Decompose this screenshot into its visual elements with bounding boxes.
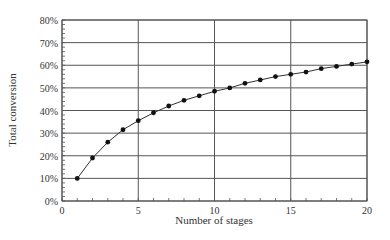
y-tick-label: 80% [40, 15, 58, 26]
conversion-chart: 0%10%20%30%40%50%60%70%80% 05101520 Numb… [0, 0, 390, 240]
data-point [288, 72, 293, 77]
y-tick-label: 50% [40, 83, 58, 94]
y-tick-label: 30% [40, 128, 58, 139]
data-point [319, 66, 324, 71]
x-axis-label: Number of stages [175, 214, 253, 226]
x-tick-label: 5 [136, 205, 141, 216]
y-tick-label: 20% [40, 151, 58, 162]
x-tick-label: 0 [60, 205, 65, 216]
y-tick-labels: 0%10%20%30%40%50%60%70%80% [40, 15, 58, 207]
data-point [182, 98, 187, 103]
data-point [258, 78, 263, 83]
y-tick-label: 10% [40, 173, 58, 184]
data-point [365, 59, 370, 64]
chart-svg: 0%10%20%30%40%50%60%70%80% 05101520 Numb… [0, 0, 390, 240]
conversion-line [77, 62, 367, 178]
data-point [349, 62, 354, 67]
y-tick-label: 70% [40, 38, 58, 49]
grid-lines [62, 20, 367, 201]
data-point [105, 140, 110, 145]
data-point [151, 110, 156, 115]
y-tick-label: 0% [45, 196, 58, 207]
data-point [304, 70, 309, 75]
y-axis-label: Total conversion [6, 73, 18, 147]
data-point [90, 156, 95, 161]
y-tick-label: 60% [40, 60, 58, 71]
data-point [197, 93, 202, 98]
data-point [166, 104, 171, 109]
data-point [227, 85, 232, 90]
x-tick-label: 20 [362, 205, 372, 216]
data-point [136, 118, 141, 123]
x-tick-label: 15 [286, 205, 296, 216]
data-markers [75, 59, 370, 180]
data-point [334, 64, 339, 69]
data-point [273, 74, 278, 79]
data-point [75, 176, 80, 181]
data-point [212, 89, 217, 94]
y-tick-label: 40% [40, 106, 58, 117]
data-point [243, 81, 248, 86]
data-point [121, 127, 126, 132]
